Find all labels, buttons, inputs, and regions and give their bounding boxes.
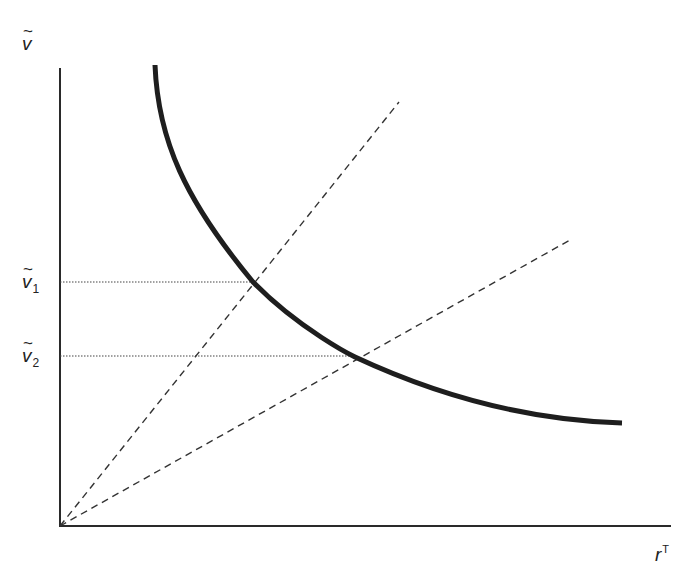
demand-curve xyxy=(155,65,622,423)
ray-shallow xyxy=(60,240,570,526)
y-axis-label-base: v xyxy=(22,34,32,53)
v2-tick-label: v2 xyxy=(22,346,39,369)
v1-label-sub: 1 xyxy=(33,282,40,296)
x-axis-label: rT xyxy=(655,544,669,564)
chart-canvas xyxy=(0,0,696,584)
x-axis-label-base: r xyxy=(655,544,661,565)
ray-steep xyxy=(60,102,399,526)
v2-label-sub: 2 xyxy=(33,356,40,370)
v1-label-base: v xyxy=(22,272,32,291)
x-axis-label-sup: T xyxy=(662,543,669,555)
v2-label-base: v xyxy=(22,346,32,365)
v1-tick-label: v1 xyxy=(22,272,39,295)
y-axis-label: v xyxy=(22,34,32,53)
